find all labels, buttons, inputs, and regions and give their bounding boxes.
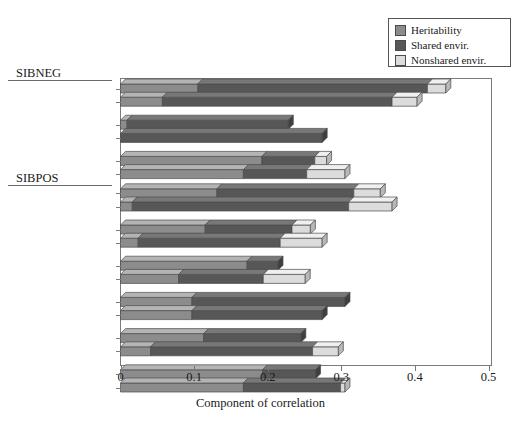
- x-axis-tick-labels: 00.10.20.30.40.5: [0, 371, 521, 387]
- y-axis-tickmark: [116, 338, 121, 339]
- x-tick-label: 0.1: [186, 371, 202, 384]
- y-axis-tickmark: [116, 279, 121, 280]
- y-axis-tickmark: [116, 174, 121, 175]
- y-axis-tickmark: [116, 388, 121, 389]
- x-axis-title: Component of correlation: [0, 396, 521, 411]
- x-tick-label: 0.4: [407, 371, 423, 384]
- x-tick-label: 0.2: [260, 371, 276, 384]
- plot-area: [120, 78, 492, 366]
- x-tick-label: 0.3: [333, 371, 349, 384]
- y-axis-tickmark: [116, 193, 121, 194]
- y-axis-tickmark: [116, 207, 121, 208]
- y-axis-tickmark: [116, 125, 121, 126]
- x-tick-label: 0.5: [481, 371, 497, 384]
- y-axis-tickmark: [116, 302, 121, 303]
- y-axis-tickmark: [116, 315, 121, 316]
- y-axis-tickmark: [116, 243, 121, 244]
- y-axis-tickmark: [116, 102, 121, 103]
- group-header-sibpos: SIBPOS: [8, 172, 112, 186]
- y-axis-tickmark: [116, 89, 121, 90]
- square-swatch-icon: [395, 40, 406, 51]
- y-axis-tickmark: [116, 161, 121, 162]
- legend-item-shared-envir: Shared envir.: [395, 38, 505, 52]
- y-axis-tickmark: [116, 138, 121, 139]
- square-swatch-icon: [395, 55, 406, 66]
- y-axis-tickmark: [116, 351, 121, 352]
- legend-item-nonshared-envir: Nonshared envir.: [395, 53, 505, 67]
- square-swatch-icon: [395, 25, 406, 36]
- x-tick-label: 0: [117, 371, 123, 384]
- y-axis-tickmark: [116, 230, 121, 231]
- chart-figure: Heritability Shared envir. Nonshared env…: [0, 0, 521, 427]
- legend-item-heritability: Heritability: [395, 23, 505, 37]
- y-axis-tickmark: [116, 266, 121, 267]
- y-axis-tickmark: [116, 374, 121, 375]
- group-header-sibneg: SIBNEG: [8, 67, 112, 81]
- legend-label: Heritability: [411, 25, 462, 36]
- legend-label: Nonshared envir.: [411, 55, 486, 66]
- legend: Heritability Shared envir. Nonshared env…: [388, 18, 511, 67]
- legend-label: Shared envir.: [411, 40, 469, 51]
